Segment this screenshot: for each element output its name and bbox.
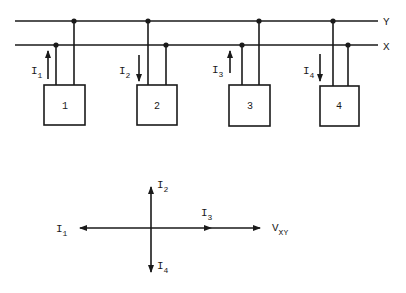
phasor-i2-label: I2 bbox=[157, 179, 169, 194]
unit-number: 2 bbox=[154, 101, 160, 112]
junction-dot bbox=[256, 18, 261, 23]
current-label: I4 bbox=[303, 65, 315, 80]
current-label: I1 bbox=[31, 65, 43, 80]
phasor-i1-label: I1 bbox=[56, 223, 68, 238]
unit-3: 3 I3 bbox=[212, 18, 270, 126]
phasor-vxy-label: VXY bbox=[272, 222, 288, 237]
current-label: I3 bbox=[212, 64, 224, 79]
phasor-i3-label: I3 bbox=[201, 207, 213, 222]
phasor-diagram bbox=[80, 187, 260, 272]
junction-dot bbox=[71, 18, 76, 23]
current-label: I2 bbox=[119, 65, 131, 80]
junction-dot bbox=[163, 42, 168, 47]
unit-number: 1 bbox=[62, 101, 68, 112]
junction-dot bbox=[345, 42, 350, 47]
junction-dot bbox=[330, 18, 335, 23]
bus-diagram: Y X 1 I1 2 I2 3 I3 bbox=[0, 0, 406, 293]
phasor-i4-label: I4 bbox=[157, 260, 169, 275]
unit-number: 3 bbox=[247, 101, 253, 112]
unit-1: 1 I1 bbox=[31, 18, 85, 125]
unit-4: 4 I4 bbox=[303, 18, 359, 126]
bus-y-label: Y bbox=[383, 16, 390, 28]
bus-x-label: X bbox=[383, 41, 390, 53]
unit-2: 2 I2 bbox=[119, 18, 177, 125]
junction-dot bbox=[53, 42, 58, 47]
unit-number: 4 bbox=[336, 101, 342, 112]
junction-dot bbox=[145, 18, 150, 23]
junction-dot bbox=[239, 42, 244, 47]
bus-lines bbox=[15, 21, 378, 45]
